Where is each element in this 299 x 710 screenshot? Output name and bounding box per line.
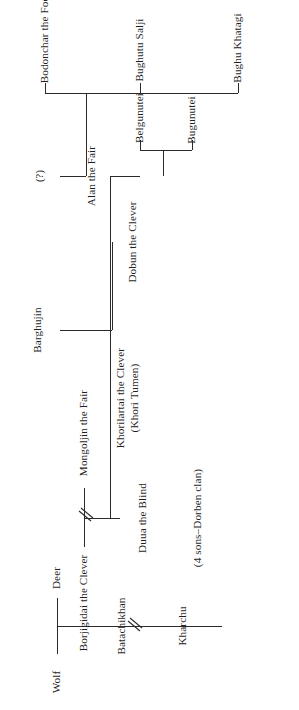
node-deer: Deer — [50, 567, 64, 589]
node-borjigidai: Borjigidai the Clever — [77, 555, 91, 652]
break-mark-1a — [128, 621, 140, 631]
break-mark-2a — [79, 511, 91, 521]
node-unknown-father: (?) — [34, 170, 47, 182]
connector-lines — [0, 0, 299, 710]
node-mongoljin: Mongoljin the Fair — [77, 390, 91, 476]
node-barghujin: Barghujin — [31, 307, 45, 352]
node-kharchu: Kharchu — [176, 606, 190, 645]
node-khorilartai: Khorilartai the Clever (Khori Tumen) — [114, 348, 141, 448]
node-bughutu-salji: Bughutu Salji — [133, 18, 147, 81]
genealogy-chart: Wolf Deer Batachikhan Kharchu Borjigidai… — [0, 0, 299, 710]
node-khorilartai-sublabel: (Khori Tumen) — [128, 348, 142, 448]
node-duua: Duua the Blind — [136, 483, 150, 553]
node-khorilartai-label: Khorilartai the Clever — [114, 348, 126, 448]
node-wolf: Wolf — [50, 671, 64, 694]
node-alan: Alan the Fair — [85, 146, 99, 206]
break-mark-1b — [130, 618, 142, 628]
node-bodonchar: Bodonchar the Fool — [38, 0, 52, 83]
genealogy-chart-rotated-stage: Wolf Deer Batachikhan Kharchu Borjigidai… — [0, 0, 299, 710]
break-mark-2b — [81, 508, 93, 518]
node-bugunutei: Bugunutei — [185, 96, 199, 144]
node-dobun: Dobun the Clever — [126, 201, 140, 282]
node-bughu-khatagi: Bughu Khatagi — [231, 13, 245, 82]
node-belgunutei: Belgunutei — [133, 93, 147, 143]
node-batachikhan: Batachikhan — [115, 597, 129, 654]
node-duua-note: (4 sons–Dorben clan) — [191, 469, 205, 567]
